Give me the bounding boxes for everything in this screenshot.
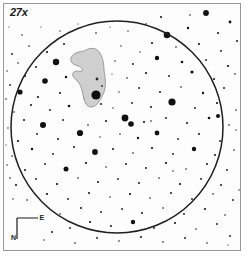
star-marker: [128, 121, 134, 127]
star-marker: [238, 189, 239, 190]
star-marker: [190, 70, 193, 73]
star-marker: [202, 92, 204, 94]
star-marker: [95, 32, 97, 34]
star-marker: [216, 114, 220, 118]
star-marker: [5, 98, 7, 100]
star-marker: [150, 106, 152, 108]
star-marker: [12, 198, 13, 199]
star-marker: [97, 181, 99, 183]
star-marker: [172, 170, 173, 171]
star-marker: [168, 98, 175, 105]
star-marker: [100, 211, 102, 213]
star-marker: [159, 91, 161, 93]
star-marker: [227, 65, 229, 67]
compass-north-label: N: [11, 234, 16, 241]
star-marker: [7, 127, 8, 128]
star-marker: [206, 163, 208, 165]
star-marker: [28, 45, 30, 47]
star-marker: [220, 50, 222, 52]
star-marker: [15, 184, 17, 186]
star-marker: [233, 149, 235, 151]
star-marker: [117, 178, 119, 180]
star-marker: [46, 193, 48, 195]
star-marker: [21, 34, 23, 36]
star-marker: [138, 87, 140, 89]
star-marker: [11, 53, 13, 55]
star-marker: [87, 124, 89, 126]
finder-chart: N E 27x: [0, 0, 244, 258]
star-marker: [151, 147, 153, 149]
star-marker: [73, 146, 75, 148]
nebula-core-star: [91, 90, 100, 99]
star-marker: [105, 166, 107, 168]
star-marker: [114, 60, 115, 61]
star-marker: [112, 107, 113, 108]
star-marker: [177, 138, 179, 140]
star-marker: [40, 26, 41, 27]
star-marker: [101, 85, 103, 87]
star-marker: [23, 119, 25, 121]
star-marker: [118, 91, 119, 92]
star-marker: [139, 51, 140, 52]
star-marker: [24, 169, 26, 171]
star-marker: [110, 225, 112, 227]
star-marker: [179, 183, 181, 185]
star-marker: [17, 140, 19, 142]
star-marker: [100, 103, 102, 105]
star-marker: [6, 164, 7, 165]
star-marker: [44, 163, 46, 165]
star-marker: [77, 23, 78, 24]
star-marker: [132, 152, 134, 154]
star-marker: [131, 220, 135, 224]
star-marker: [192, 147, 196, 151]
star-marker: [191, 198, 193, 200]
star-marker: [204, 208, 206, 210]
star-marker: [234, 73, 236, 75]
star-marker: [43, 239, 44, 240]
star-marker: [13, 111, 15, 113]
star-marker: [158, 177, 160, 179]
star-marker: [229, 235, 231, 237]
star-marker: [155, 131, 160, 136]
star-marker: [30, 104, 32, 106]
compass-arms-icon: [17, 218, 38, 239]
star-marker: [17, 62, 19, 64]
star-marker: [57, 138, 59, 140]
star-marker: [137, 137, 139, 139]
star-marker: [111, 73, 112, 74]
star-marker: [184, 237, 186, 239]
star-marker: [226, 169, 228, 171]
star-marker: [143, 121, 145, 123]
star-marker: [105, 120, 107, 122]
star-marker: [118, 240, 120, 242]
star-marker: [126, 77, 128, 79]
star-marker: [31, 148, 33, 150]
star-marker: [74, 242, 76, 244]
star-marker: [131, 102, 133, 104]
star-marker: [59, 213, 61, 215]
star-marker: [223, 87, 225, 89]
star-marker: [189, 14, 191, 16]
star-marker: [52, 153, 54, 155]
star-marker: [89, 221, 91, 223]
star-marker: [129, 193, 131, 195]
star-marker: [145, 167, 147, 169]
star-marker: [160, 16, 162, 18]
star-marker: [59, 30, 60, 31]
star-marker: [141, 212, 143, 214]
star-marker: [122, 115, 129, 122]
star-marker: [145, 72, 147, 74]
star-marker: [63, 43, 65, 45]
star-marker: [99, 136, 100, 137]
star-marker: [138, 182, 140, 184]
star-marker: [227, 244, 228, 245]
star-marker: [168, 75, 170, 77]
star-marker: [224, 214, 226, 216]
star-marker: [62, 119, 64, 121]
star-marker: [172, 153, 174, 155]
star-marker: [205, 59, 207, 61]
star-marker: [125, 163, 127, 165]
star-marker: [150, 120, 152, 122]
star-marker: [153, 227, 155, 229]
star-marker: [6, 70, 7, 71]
